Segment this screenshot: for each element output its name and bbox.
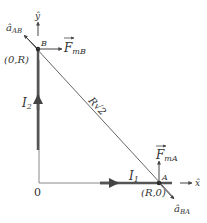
- B-coord-label: (0,R): [4, 54, 29, 65]
- F-mA-label: FmA: [155, 148, 178, 163]
- point-A-label: A: [161, 173, 168, 182]
- a-AB-arrow: [24, 35, 38, 49]
- origin-label: 0: [34, 186, 41, 199]
- a-BA-sub: BA: [179, 208, 190, 216]
- I2-label: I2: [21, 96, 32, 111]
- F-mB-sub: mB: [72, 47, 86, 56]
- a-BA-label: âBA: [174, 203, 190, 216]
- y-hat-label: ŷ: [34, 11, 41, 21]
- x-hat-label: x̂: [195, 178, 200, 188]
- a-AB-sub: AB: [11, 27, 22, 35]
- I1-label: I1: [128, 169, 139, 184]
- I1-sub: 1: [134, 175, 139, 184]
- A-coord-label: (R,0): [141, 187, 166, 198]
- F-mB-label: FmB: [63, 41, 86, 56]
- point-B-label: B: [40, 39, 47, 48]
- I2-sub: 2: [26, 102, 32, 111]
- F-mA-sub: mA: [164, 154, 178, 163]
- a-AB-label: âAB: [6, 22, 22, 35]
- diagonal-line: [24, 35, 174, 198]
- magnetic-force-diagram: ŷ x̂ âAB B (0,R) FmB I2 R√2 FmA I1 A (R,…: [0, 0, 207, 223]
